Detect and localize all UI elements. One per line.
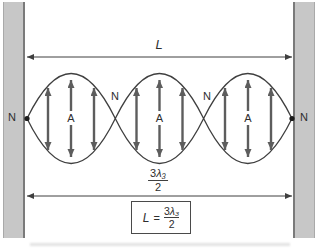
fraction-lambda: λ₃	[156, 167, 166, 179]
scan-shadow	[30, 243, 290, 246]
node-label-mid-1: N	[111, 90, 119, 102]
node-label-mid-2: N	[203, 90, 211, 102]
formula-equals: =	[154, 212, 160, 224]
node-label-left: N	[8, 111, 16, 123]
antinode-label-3: A	[242, 111, 253, 125]
antinode-label-2: A	[154, 111, 165, 125]
standing-wave-diagram: L N N N N A A A 3λ₃ 2 L = 3λ₃ 2	[0, 0, 317, 248]
fraction-numerator: 3λ₃	[148, 168, 168, 179]
formula-denominator: 2	[169, 219, 175, 230]
formula-fraction: 3λ₃ 2	[164, 206, 179, 230]
wavelength-fraction: 3λ₃ 2	[148, 168, 168, 193]
formula-lambda: λ₃	[170, 205, 179, 217]
fraction-denominator: 2	[153, 182, 163, 193]
length-label: L	[155, 39, 162, 51]
antinode-label-1: A	[65, 111, 76, 125]
right-node-dot	[289, 116, 294, 121]
formula-lhs: L	[143, 211, 150, 225]
formula-box: L = 3λ₃ 2	[131, 201, 191, 234]
left-node-dot	[24, 116, 29, 121]
node-label-right: N	[300, 111, 308, 123]
formula-numerator: 3λ₃	[164, 206, 179, 217]
